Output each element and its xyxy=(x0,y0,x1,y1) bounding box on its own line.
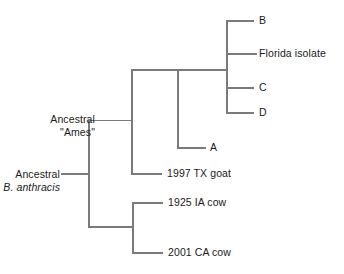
label-ancestral-ames: Ancestral "Ames" xyxy=(33,113,95,138)
label-taxon-florida-isolate: Florida isolate xyxy=(259,47,326,60)
label-ancestral-ames-line1: Ancestral xyxy=(33,113,95,126)
label-ancestral-b-anthracis-line2: B. anthracis xyxy=(0,181,60,194)
label-taxon-2001-ca-cow: 2001 CA cow xyxy=(168,246,231,259)
label-taxon-1997-tx-goat: 1997 TX goat xyxy=(167,167,231,180)
label-ancestral-b-anthracis: Ancestral B. anthracis xyxy=(0,168,60,193)
phylogenetic-tree-figure: Ancestral B. anthracis Ancestral "Ames" … xyxy=(0,0,344,274)
label-taxon-1925-ia-cow: 1925 IA cow xyxy=(168,196,226,209)
label-ancestral-ames-line2: "Ames" xyxy=(33,126,95,139)
label-taxon-c: C xyxy=(259,81,267,94)
label-ancestral-b-anthracis-line1: Ancestral xyxy=(0,168,60,181)
label-taxon-a: A xyxy=(210,141,217,154)
label-taxon-d: D xyxy=(259,106,267,119)
label-taxon-b: B xyxy=(259,14,266,27)
